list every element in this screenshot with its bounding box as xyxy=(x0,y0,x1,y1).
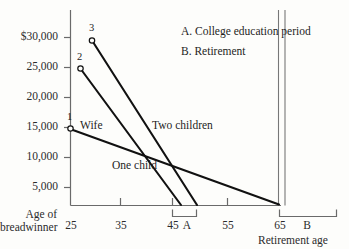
legend-item-a: A. College education period xyxy=(181,26,311,38)
series-number-3: 3 xyxy=(89,23,94,34)
bracket-a-shape xyxy=(173,210,197,217)
x-tick-label-35: 35 xyxy=(109,220,133,232)
series-label-wife: Wife xyxy=(80,120,103,132)
legend-item-b: B. Retirement xyxy=(181,46,246,58)
bracket-a-path xyxy=(173,210,197,217)
series-number-1: 1 xyxy=(67,112,72,123)
y-tick-label-15000: 15,000 xyxy=(2,121,58,133)
series-wife-line xyxy=(72,130,280,205)
x-axis-title-right: Retirement age xyxy=(258,235,328,247)
y-tick-label-25000: 25,000 xyxy=(2,61,58,73)
bracket-a-label: A xyxy=(180,220,194,232)
retirement-age-marker xyxy=(279,10,286,206)
bracket-b-shape xyxy=(280,210,337,217)
income-needs-chart: $30,000 25,000 20,000 15,000 10,000 5,00… xyxy=(0,0,349,249)
y-tick-label-5000: 5,000 xyxy=(2,181,58,193)
x-axis-title-line2: breadwinner xyxy=(0,221,57,234)
series-number-2: 2 xyxy=(77,52,82,63)
series-one-child-marker xyxy=(78,66,83,71)
y-tick-label-10000: 10,000 xyxy=(2,151,58,163)
x-tick-label-25: 25 xyxy=(59,220,83,232)
series-wife xyxy=(68,126,279,205)
y-tick-label-20000: 20,000 xyxy=(2,91,58,103)
series-one-child xyxy=(78,66,181,205)
series-two-children-marker xyxy=(89,38,94,43)
bracket-b-path xyxy=(280,210,337,217)
x-axis-title-left: Age of breadwinner xyxy=(0,208,57,234)
x-axis-title-line1: Age of xyxy=(0,208,57,221)
series-wife-marker xyxy=(68,126,73,131)
series-label-one-child: One child xyxy=(112,160,157,172)
series-label-two-children: Two children xyxy=(152,120,213,132)
x-tick-label-65: 65 xyxy=(268,220,292,232)
x-axis-ticks xyxy=(121,198,228,205)
y-tick-label-30000: $30,000 xyxy=(2,31,58,43)
x-tick-label-55: 55 xyxy=(216,220,240,232)
bracket-b-label: B xyxy=(300,220,314,232)
